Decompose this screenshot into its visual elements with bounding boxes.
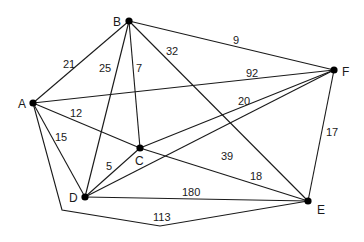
- node-f: [330, 66, 337, 73]
- edge-weight-label: 21: [63, 58, 75, 70]
- edge-c-d: [85, 148, 140, 197]
- node-b: [125, 17, 132, 24]
- edge-c-f: [140, 70, 334, 148]
- weighted-graph-diagram: 21257329921218205153918017113 ABCDEF: [0, 0, 364, 242]
- edge-b-c: [129, 21, 140, 148]
- edge-weight-label: 25: [99, 62, 111, 74]
- edge-weight-label: 15: [55, 131, 67, 143]
- node-d: [81, 193, 88, 200]
- edge-a-f: [33, 70, 334, 103]
- edge-a-e: [33, 103, 308, 226]
- edge-weights: 21257329921218205153918017113: [55, 34, 338, 223]
- edge-d-f: [85, 70, 334, 197]
- node-c: [136, 144, 143, 151]
- edge-weight-label: 113: [153, 211, 171, 223]
- node-label: B: [113, 15, 121, 29]
- edge-b-f: [129, 21, 334, 70]
- node-label: D: [69, 191, 78, 205]
- edge-weight-label: 32: [166, 45, 178, 57]
- edge-a-c: [33, 103, 140, 148]
- node-label: F: [342, 65, 349, 79]
- edge-weight-label: 20: [238, 95, 250, 107]
- edge-b-e: [129, 21, 308, 201]
- node-e: [304, 197, 311, 204]
- edge-weight-label: 18: [250, 170, 262, 182]
- node-a: [29, 99, 36, 106]
- edge-weight-label: 92: [246, 67, 258, 79]
- edge-weight-label: 7: [136, 62, 142, 74]
- edge-weight-label: 12: [70, 107, 82, 119]
- edge-weight-label: 17: [326, 126, 338, 138]
- node-label: C: [135, 154, 144, 168]
- node-label: E: [317, 203, 325, 217]
- edge-weight-label: 9: [233, 34, 239, 46]
- edge-weight-label: 39: [221, 150, 233, 162]
- edge-weight-label: 5: [106, 160, 112, 172]
- node-label: A: [18, 97, 26, 111]
- edge-weight-label: 180: [182, 186, 200, 198]
- edge-a-b: [33, 21, 129, 103]
